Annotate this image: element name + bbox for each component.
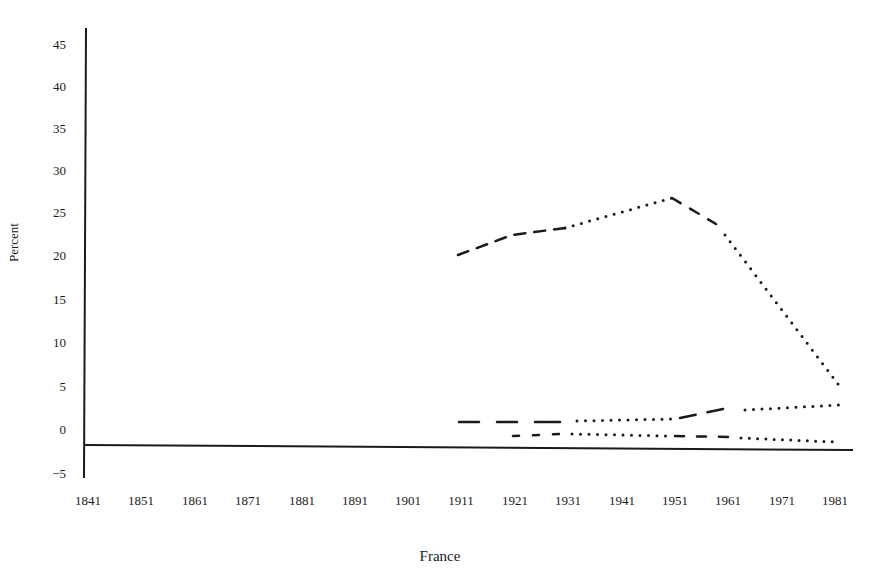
x-tick-1971: 1971 bbox=[757, 494, 807, 508]
y-tick-30: 30 bbox=[26, 164, 66, 178]
x-tick-1941: 1941 bbox=[597, 494, 647, 508]
y-tick-0: 0 bbox=[26, 423, 66, 437]
x-tick-1891: 1891 bbox=[330, 494, 380, 508]
y-tick-35: 35 bbox=[26, 122, 66, 136]
y-axis-label: Percent bbox=[6, 223, 22, 262]
x-tick-1881: 1881 bbox=[277, 494, 327, 508]
x-tick-1901: 1901 bbox=[383, 494, 433, 508]
series-lower bbox=[513, 434, 836, 442]
y-tick-5: 5 bbox=[26, 380, 66, 394]
series-upper bbox=[458, 198, 838, 384]
x-tick-1921: 1921 bbox=[490, 494, 540, 508]
x-axis-baseline bbox=[84, 445, 853, 450]
x-tick-1861: 1861 bbox=[170, 494, 220, 508]
chart-plot-area bbox=[0, 0, 880, 569]
y-tick-minus5: −5 bbox=[26, 467, 66, 481]
series-middle bbox=[459, 405, 840, 422]
x-axis-label: France bbox=[0, 548, 880, 565]
x-tick-1951: 1951 bbox=[650, 494, 700, 508]
x-tick-1911: 1911 bbox=[436, 494, 486, 508]
x-tick-1871: 1871 bbox=[223, 494, 273, 508]
y-tick-40: 40 bbox=[26, 80, 66, 94]
x-tick-1961: 1961 bbox=[703, 494, 753, 508]
x-tick-1841: 1841 bbox=[63, 494, 113, 508]
y-tick-10: 10 bbox=[26, 336, 66, 350]
y-tick-25: 25 bbox=[26, 206, 66, 220]
y-tick-45: 45 bbox=[26, 38, 66, 52]
x-tick-1851: 1851 bbox=[116, 494, 166, 508]
x-tick-1931: 1931 bbox=[543, 494, 593, 508]
y-tick-15: 15 bbox=[26, 293, 66, 307]
x-tick-1981: 1981 bbox=[810, 494, 860, 508]
y-axis-line bbox=[84, 28, 86, 478]
y-tick-20: 20 bbox=[26, 249, 66, 263]
